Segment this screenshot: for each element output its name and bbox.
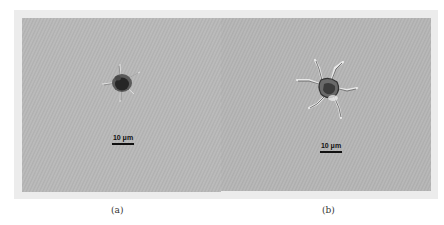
cell-b-image xyxy=(295,58,361,120)
panel-label-a: (a) xyxy=(111,205,123,215)
scale-bar-label: 10 μm xyxy=(112,134,134,142)
scale-bar-label: 10 μm xyxy=(320,142,342,150)
cell-a-image xyxy=(96,58,146,106)
scale-bar-line xyxy=(112,143,134,145)
scale-bar-line xyxy=(320,151,342,153)
micrograph-panel-b: 10 μm xyxy=(221,18,431,191)
micrograph-panel-a: 10 μm xyxy=(22,18,221,192)
scale-bar-b: 10 μm xyxy=(320,142,342,153)
panel-label-b: (b) xyxy=(322,205,335,215)
scale-bar-a: 10 μm xyxy=(112,134,134,145)
